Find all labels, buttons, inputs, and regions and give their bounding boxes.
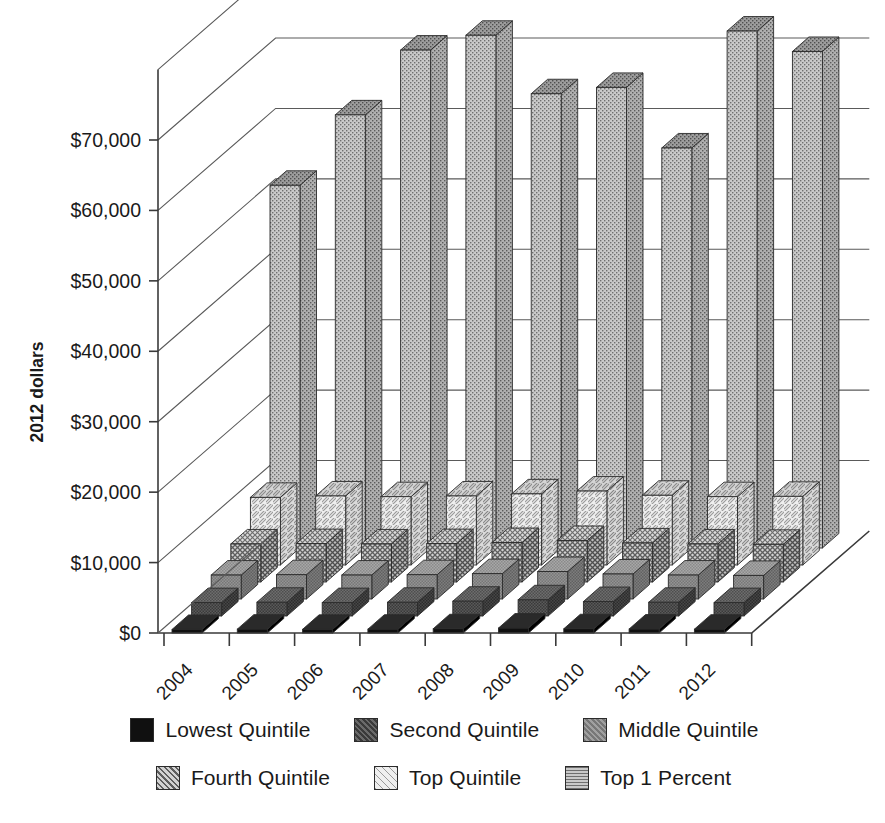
legend-swatch-solid-black-icon: [130, 718, 154, 742]
bar-second-quintile-2008: [453, 587, 500, 616]
legend-label: Middle Quintile: [618, 718, 758, 742]
bar-second-quintile-2009: [518, 585, 565, 616]
legend-item-lowest-quintile[interactable]: Lowest Quintile: [130, 718, 310, 742]
legend-swatch-medium-gray-icon: [583, 718, 607, 742]
bar-second-quintile-2005: [257, 588, 304, 616]
y-axis-ticks: $0$10,000$20,000$30,000$40,000$50,000$60…: [71, 129, 159, 644]
bar-lowest-quintile-2005: [237, 615, 283, 633]
y-axis-title: 2012 dollars: [27, 341, 47, 442]
legend-item-middle-quintile[interactable]: Middle Quintile: [583, 718, 758, 742]
x-tick-label: 2007: [348, 659, 393, 700]
legend-swatch-crosshatch-icon: [156, 766, 180, 790]
bar-top-1-percent-2008: [531, 79, 578, 548]
x-tick-label: 2006: [283, 659, 328, 700]
y-tick-label: $10,000: [71, 552, 142, 574]
bar-lowest-quintile-2008: [433, 614, 480, 633]
bar-top-1-percent-2012: [792, 37, 839, 548]
y-tick-label: $30,000: [71, 411, 142, 433]
bar-lowest-quintile-2006: [303, 615, 350, 633]
legend-row-1: Lowest Quintile Second Quintile Middle Q…: [0, 706, 885, 754]
x-tick-label: 2004: [152, 659, 197, 700]
legend-label: Fourth Quintile: [191, 766, 330, 790]
legend-swatch-dark-gray-icon: [354, 718, 378, 742]
y-tick-label: $20,000: [71, 481, 142, 503]
x-tick-label: 2009: [479, 659, 524, 700]
bar-top-1-percent-2011: [727, 17, 774, 548]
legend-swatch-light-diagonal-icon: [374, 766, 398, 790]
bar-second-quintile-2012: [714, 588, 761, 616]
legend-label: Lowest Quintile: [165, 718, 310, 742]
legend-item-top-quintile[interactable]: Top Quintile: [374, 766, 521, 790]
y-tick-label: $70,000: [71, 129, 142, 151]
bar-top-1-percent-2005: [335, 100, 382, 548]
bar-second-quintile-2004: [192, 588, 239, 616]
bar-top-1-percent-2007: [466, 21, 513, 548]
legend-label: Top 1 Percent: [600, 766, 731, 790]
bar-lowest-quintile-2012: [694, 615, 741, 633]
y-axis-title-label: 2012 dollars: [27, 341, 47, 442]
legend-item-fourth-quintile[interactable]: Fourth Quintile: [156, 766, 330, 790]
chart-legend: Lowest Quintile Second Quintile Middle Q…: [0, 706, 885, 802]
bar-second-quintile-2010: [583, 587, 630, 616]
y-tick-label: $50,000: [71, 270, 142, 292]
legend-label: Second Quintile: [389, 718, 539, 742]
legend-swatch-stipple-icon: [565, 766, 589, 790]
y-tick-label: $0: [119, 622, 141, 644]
chart-container: $0$10,000$20,000$30,000$40,000$50,000$60…: [0, 0, 885, 823]
bar-second-quintile-2006: [322, 588, 369, 616]
bar-second-quintile-2011: [649, 588, 696, 616]
bar-lowest-quintile-2011: [629, 615, 676, 633]
bars-layer: [172, 17, 839, 633]
x-tick-label: 2005: [217, 659, 262, 700]
x-tick-label: 2010: [544, 659, 589, 700]
x-tick-label: 2012: [674, 659, 719, 700]
legend-label: Top Quintile: [409, 766, 521, 790]
y-tick-label: $60,000: [71, 199, 142, 221]
legend-item-top-1-percent[interactable]: Top 1 Percent: [565, 766, 731, 790]
legend-item-second-quintile[interactable]: Second Quintile: [354, 718, 539, 742]
bar-lowest-quintile-2010: [564, 614, 611, 633]
bar-lowest-quintile-2004: [172, 615, 219, 633]
x-tick-label: 2008: [413, 659, 458, 700]
bar-lowest-quintile-2007: [368, 615, 415, 633]
x-tick-label: 2011: [610, 659, 654, 700]
bar-top-1-percent-2006: [401, 36, 448, 548]
x-axis-ticks: 200420052006200720082009201020112012: [152, 633, 752, 700]
bar-lowest-quintile-2009: [499, 614, 546, 633]
bar-second-quintile-2007: [388, 588, 435, 616]
legend-row-2: Fourth Quintile Top Quintile Top 1 Perce…: [0, 754, 885, 802]
y-tick-label: $40,000: [71, 340, 142, 362]
chart-plot-area: $0$10,000$20,000$30,000$40,000$50,000$60…: [0, 0, 885, 700]
